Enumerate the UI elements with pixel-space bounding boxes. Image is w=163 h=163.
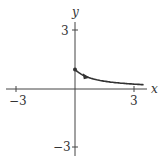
x-axis-label: x: [151, 82, 158, 96]
x-tick-label-neg3: −3: [9, 94, 27, 108]
start-point: [73, 68, 77, 72]
plot: y x −3 3 3 −3: [0, 0, 163, 163]
x-tick-label-3: 3: [130, 94, 138, 108]
y-axis-label: y: [71, 5, 79, 19]
direction-arrow-icon: [83, 73, 90, 79]
y-tick-label-3: 3: [61, 24, 69, 38]
y-tick-label-neg3: −3: [53, 140, 71, 154]
